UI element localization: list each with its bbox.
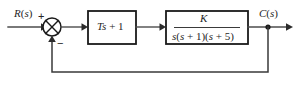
block-plant-numerator: K	[200, 13, 207, 24]
block-diagram: R(s) + − Ts + 1 K s(s + 1)(s + 5) C(s)	[0, 0, 305, 88]
input-signal-label: R(s)	[14, 8, 32, 19]
block-plant-denominator: s(s + 1)(s + 5)	[172, 31, 234, 42]
summing-junction-plus-sign: +	[38, 11, 44, 22]
input-wire	[8, 23, 48, 31]
error-wire	[61, 23, 88, 31]
interstage-wire	[136, 23, 166, 31]
output-signal-label: C(s)	[259, 8, 278, 19]
block-controller-label: Ts + 1	[97, 21, 124, 32]
summing-junction-minus-sign: −	[57, 38, 63, 49]
summing-junction-symbol	[43, 18, 61, 36]
output-wire	[248, 23, 293, 31]
